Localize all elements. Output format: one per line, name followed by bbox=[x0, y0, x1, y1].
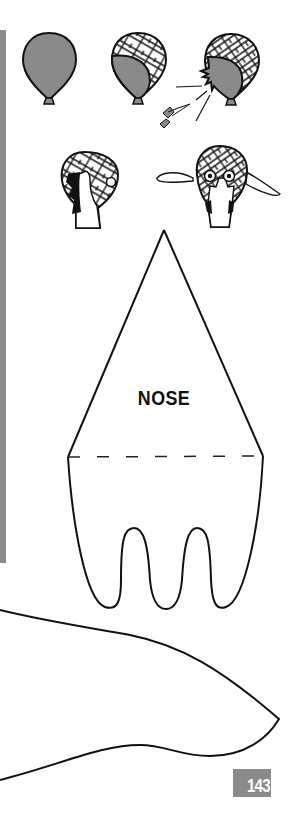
page-number: 143 bbox=[247, 769, 271, 797]
ear-template-outline bbox=[0, 610, 279, 780]
balloon-popped-icon bbox=[160, 34, 259, 128]
head-front-view-icon bbox=[157, 146, 280, 227]
balloon-covered-icon bbox=[112, 33, 166, 104]
craft-illustrations bbox=[0, 0, 294, 827]
nose-label: NOSE bbox=[25, 386, 275, 410]
fold-line bbox=[68, 456, 263, 457]
page-number-badge: 143 bbox=[233, 769, 271, 797]
push-pin-icon bbox=[160, 104, 190, 128]
balloon-plain-icon bbox=[23, 33, 76, 104]
nose-template-outline bbox=[68, 230, 263, 609]
head-side-view-icon bbox=[62, 152, 118, 228]
